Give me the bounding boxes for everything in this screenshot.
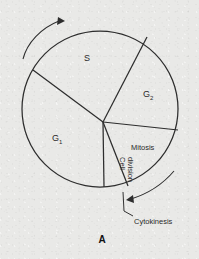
label-g1-main: G (52, 133, 59, 143)
cytokinesis-arrow-head (126, 195, 134, 203)
cycle-arrow-arc (23, 21, 59, 59)
cycle-arrow-head (57, 17, 65, 25)
label-g2-subscript: 2 (150, 95, 154, 101)
cytokinesis-leader-line (124, 211, 133, 216)
divider-g2-mitosis (103, 122, 178, 130)
cell-cycle-circle (22, 31, 178, 187)
divider-celldivision-g1 (103, 122, 104, 187)
label-s-phase: S (84, 53, 90, 63)
label-cell-division-line1: Cell (118, 157, 127, 170)
divider-g1-s (33, 70, 103, 122)
divider-mitosis-celldivision (103, 122, 128, 186)
label-g1-phase: G 1 (52, 133, 63, 145)
figure-background: S G 2 G 1 Mitosis Cell division Cytokine… (0, 0, 199, 259)
divider-s-g2 (103, 37, 147, 122)
clockwise-cycle-arrow (23, 17, 65, 59)
label-mitosis: Mitosis (131, 143, 155, 152)
label-cytokinesis: Cytokinesis (134, 217, 173, 226)
cytokinesis-arc (131, 171, 174, 199)
cell-cycle-pie-diagram: S G 2 G 1 Mitosis Cell division Cytokine… (0, 0, 199, 259)
panel-label-a: A (98, 234, 105, 245)
label-cell-division-line2: division (126, 157, 135, 182)
label-g2-phase: G 2 (143, 89, 154, 101)
cytokinesis-leader-tick (123, 192, 124, 211)
label-cell-division: Cell division (118, 157, 135, 182)
label-g1-subscript: 1 (59, 139, 63, 145)
label-g2-main: G (143, 89, 150, 99)
